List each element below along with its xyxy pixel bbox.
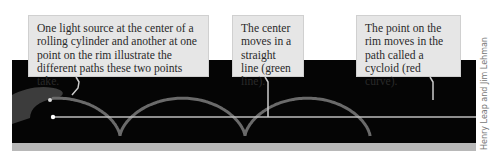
photo-credit: Henry Leap and Jim Lehman [480,37,489,150]
callout-center-path: The center moves in a straight line (gre… [232,15,304,77]
callout-light-sources: One light source at the center of a roll… [28,15,209,77]
callout-pointer-1 [72,77,79,95]
rim-light-source [48,98,52,102]
callout-rim-path: The point on the rim moves in the path c… [356,15,461,77]
callout-pointer-3 [430,77,433,100]
center-light-source [51,115,55,119]
hand-shape [12,87,63,124]
